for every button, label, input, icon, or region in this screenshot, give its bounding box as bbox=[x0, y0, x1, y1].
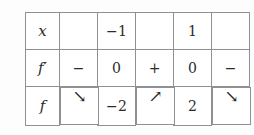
table-row-x: x −1 1 bbox=[26, 13, 250, 50]
x-cell-1 bbox=[60, 13, 98, 50]
f-cell-4: 2 bbox=[174, 87, 212, 126]
x-cell-5 bbox=[212, 13, 250, 50]
x-cell-2: −1 bbox=[98, 13, 136, 50]
variation-table: x −1 1 f′ − 0 + 0 − f ↘ −2 ↗ 2 bbox=[25, 12, 250, 126]
fprime-cell-2: 0 bbox=[98, 50, 136, 87]
row-label-f-prime: f′ bbox=[26, 50, 60, 87]
f-cell-1-arrow-down-icon: ↘ bbox=[60, 87, 99, 125]
fprime-cell-1: − bbox=[60, 50, 98, 87]
table-row-f-prime: f′ − 0 + 0 − bbox=[26, 50, 250, 87]
screenshot-canvas: x −1 1 f′ − 0 + 0 − f ↘ −2 ↗ 2 bbox=[0, 0, 254, 135]
f-cell-3-arrow-up-icon: ↗ bbox=[136, 87, 175, 125]
f-cell-5-arrow-down-icon: ↘ bbox=[212, 87, 251, 125]
table-row-f: f ↘ −2 ↗ 2 ↘ bbox=[26, 87, 250, 126]
row-label-f: f bbox=[26, 87, 60, 126]
row-label-x: x bbox=[26, 13, 60, 50]
fprime-cell-3: + bbox=[136, 50, 174, 87]
fprime-cell-5: − bbox=[212, 50, 250, 87]
f-cell-2: −2 bbox=[98, 87, 136, 126]
fprime-cell-4: 0 bbox=[174, 50, 212, 87]
x-cell-3 bbox=[136, 13, 174, 50]
x-cell-4: 1 bbox=[174, 13, 212, 50]
